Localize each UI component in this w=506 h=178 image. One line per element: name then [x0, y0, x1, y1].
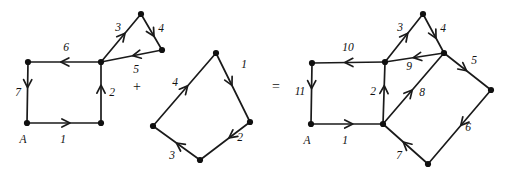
edge-label: 11 — [295, 85, 306, 97]
graph-vertex — [25, 59, 31, 65]
graph-vertex — [382, 59, 388, 65]
edge-label: 7 — [396, 149, 403, 161]
graph-vertex — [138, 11, 144, 17]
edge-label: 9 — [406, 60, 412, 72]
graph-vertex — [197, 157, 203, 163]
graph-edge: 6 — [28, 41, 101, 66]
edge-line — [311, 63, 312, 124]
graph-edge: 1 — [311, 120, 383, 146]
edge-label: 3 — [396, 21, 403, 33]
plus-operator: + — [133, 79, 141, 94]
edge-label: 1 — [241, 58, 247, 70]
graph-edge: 7 — [383, 124, 428, 164]
edge-line — [444, 53, 491, 90]
graph-edge: 4 — [153, 53, 216, 126]
graph-edge: 6 — [428, 90, 491, 164]
graph-edge: 2 — [97, 62, 115, 123]
edge-line — [383, 53, 444, 124]
edge-label: 1 — [60, 133, 66, 145]
edge-label: 10 — [342, 41, 354, 53]
graph-sum-figure: 1234567A12341234567891011A += — [0, 0, 506, 178]
graph-vertex — [425, 161, 431, 167]
edge-line — [27, 62, 28, 123]
graph-edge: 10 — [312, 41, 385, 67]
edge-label: 8 — [419, 86, 425, 98]
graph-edge: 4 — [141, 14, 164, 50]
edge-label: 2 — [370, 85, 376, 97]
edge-label: 2 — [109, 86, 115, 98]
edge-label: 2 — [237, 131, 243, 143]
edge-label: 1 — [342, 134, 348, 146]
graph-vertex — [98, 59, 104, 65]
graph-edge: 2 — [200, 122, 250, 160]
edge-line — [428, 90, 491, 164]
graph-edge: 2 — [370, 62, 388, 124]
graph-vertex — [488, 87, 494, 93]
edge-label: 5 — [471, 54, 477, 66]
vertex-label: A — [18, 133, 27, 145]
graph-vertex — [150, 123, 156, 129]
edge-line — [153, 53, 216, 126]
graph-edge: 5 — [101, 50, 162, 75]
edge-label: 6 — [465, 121, 471, 133]
graph-vertex — [441, 50, 447, 56]
second-addend-graph: 1234 — [150, 50, 253, 163]
graph-vertex — [309, 60, 315, 66]
graph-edge: 4 — [423, 14, 446, 53]
edge-label: 3 — [114, 21, 121, 33]
graph-vertex — [247, 119, 253, 125]
equals-operator: = — [272, 79, 280, 94]
edge-line — [383, 62, 385, 124]
edge-line — [383, 124, 428, 164]
first-addend-graph: 1234567A — [15, 11, 165, 145]
graph-edge: 11 — [295, 63, 316, 124]
graph-vertex — [308, 121, 314, 127]
edge-label: 4 — [158, 22, 164, 34]
graphs-layer: 1234567A12341234567891011A — [15, 11, 494, 167]
graph-vertex — [98, 120, 104, 126]
edge-label: 6 — [63, 41, 69, 53]
graph-edge: 1 — [27, 119, 101, 145]
graph-edge: 7 — [15, 62, 32, 123]
edge-label: 7 — [15, 86, 22, 98]
operators-layer: += — [133, 79, 280, 94]
graph-edge: 5 — [444, 53, 491, 90]
graph-vertex — [213, 50, 219, 56]
edge-line — [312, 62, 385, 63]
graph-vertex — [24, 120, 30, 126]
sum-graph: 1234567891011A — [295, 11, 494, 167]
graph-vertex — [159, 47, 165, 53]
graph-edge: 8 — [383, 53, 444, 124]
edge-label: 4 — [172, 76, 178, 88]
graph-edge: 3 — [153, 126, 200, 161]
edge-label: 3 — [168, 149, 175, 161]
edge-label: 5 — [133, 63, 139, 75]
graph-edge: 1 — [216, 53, 250, 122]
edge-label: 4 — [440, 22, 446, 34]
graph-vertex — [420, 11, 426, 17]
graph-vertex — [380, 121, 386, 127]
vertex-label: A — [302, 134, 311, 146]
